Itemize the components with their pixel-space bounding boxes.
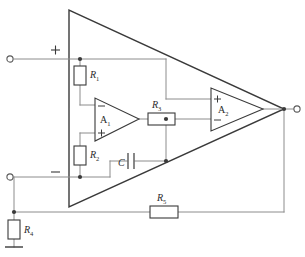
- resistor-r3-label: R3: [152, 100, 161, 113]
- opamp-a2-label: A2: [218, 105, 228, 118]
- junction-plus-node: [78, 57, 82, 61]
- resistor-r5-body: [150, 206, 178, 218]
- junction-r3-output-node: [164, 117, 168, 121]
- junction-capacitor-node: [164, 159, 168, 163]
- resistor-r2-label: R2: [90, 150, 99, 163]
- capacitor-c-plates: [128, 153, 134, 169]
- wiring: [14, 59, 295, 247]
- resistor-r2-body: [74, 146, 86, 165]
- resistor-r5-label: R5: [157, 193, 166, 206]
- junction-output-node: [282, 107, 286, 111]
- resistor-r3-body: [148, 113, 175, 125]
- circuit-diagram: R1 R2 R3 R4 R5 C A1 A2: [0, 0, 305, 257]
- resistor-r4-body: [8, 220, 20, 239]
- terminal-input-minus: [7, 174, 13, 180]
- terminal-output: [294, 106, 300, 112]
- outer-input-signs: [51, 46, 60, 173]
- junction-r4-node: [12, 210, 16, 214]
- terminal-input-plus: [7, 56, 13, 62]
- circuit-schematic-svg: [0, 0, 305, 257]
- resistor-r4-label: R4: [24, 225, 33, 238]
- junction-minus-node: [78, 175, 82, 179]
- resistor-r1-label: R1: [90, 70, 99, 83]
- capacitor-c-label: C: [118, 158, 125, 171]
- resistor-r1-body: [74, 66, 86, 85]
- opamp-a1-label: A1: [100, 115, 110, 128]
- junction-dots: [12, 57, 286, 214]
